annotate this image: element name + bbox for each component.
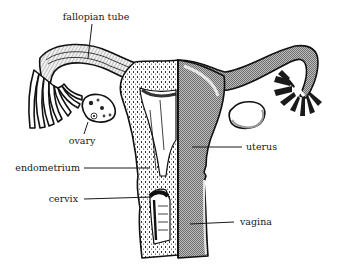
label-text-uterus: uterus [246,141,277,152]
ovary-left [82,94,115,122]
label-ovary: ovary [69,122,96,146]
section-view-left [29,44,178,258]
cervical-canal [150,189,170,244]
label-text-fallopian-tube: fallopian tube [63,11,130,22]
fimbriae-left [29,70,82,128]
label-text-vagina: vagina [239,216,272,227]
label-endometrium: endometrium [15,162,150,173]
leader-line-ovary [84,122,88,134]
label-cervix: cervix [49,193,152,204]
label-text-cervix: cervix [49,193,79,204]
label-text-endometrium: endometrium [15,162,80,173]
label-text-ovary: ovary [69,135,96,146]
reproductive-anatomy-diagram: fallopian tube ovary endometrium cervix … [0,0,342,272]
uterus-exterior [178,60,225,258]
